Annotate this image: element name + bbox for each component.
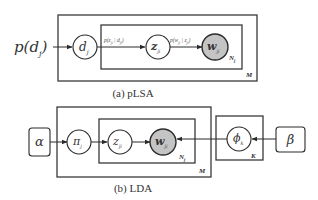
lda-node-w-observed: wji (150, 129, 176, 155)
plsa-caption: (a) pLSA (112, 87, 153, 100)
plsa-edge-label-dz: p(zji | dji) (103, 37, 124, 45)
lda-plate-m-label: M (198, 167, 206, 175)
plsa-node-w-observed: wji (202, 34, 228, 60)
lda-plate-nj-label: Nj (178, 153, 186, 162)
lda-node-phi: ϕk (227, 127, 251, 151)
lda-node-z: zji (108, 130, 132, 154)
plsa-edge-label-zw: p(wji | zji) (169, 37, 191, 45)
lda-hyper-beta: β (276, 127, 305, 152)
lda-node-pi: πj (67, 130, 91, 154)
graphical-models-figure: p(dj) dj p(zji | dji) zji p(wji | zji) (0, 0, 318, 200)
plsa-plate-m-label: M (245, 71, 253, 79)
plsa-plate-nj-label: Nj (228, 54, 236, 63)
plsa-input-label: p(dj) (14, 38, 48, 58)
plsa-node-d: dj (73, 35, 97, 59)
lda-caption: (b) LDA (114, 182, 152, 195)
svg-text:β: β (286, 132, 295, 147)
plsa-panel: p(dj) dj p(zji | dji) zji p(wji | zji) (14, 15, 257, 100)
lda-hyper-alpha: α (29, 128, 50, 156)
lda-panel: α πj zji wji (29, 107, 305, 195)
lda-plate-k-label: K (250, 152, 257, 160)
svg-text:α: α (35, 134, 44, 149)
plsa-node-z: zji (146, 35, 170, 59)
